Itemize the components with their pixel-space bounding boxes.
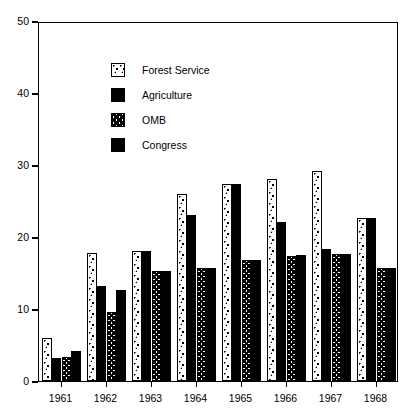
bar — [71, 351, 81, 381]
bar — [296, 255, 306, 381]
x-tick-mark — [286, 382, 288, 387]
y-tick-label: 30 — [0, 159, 29, 171]
x-tick-mark — [241, 382, 243, 387]
bar — [116, 290, 126, 381]
y-tick-label: 50 — [0, 15, 29, 27]
bar — [267, 179, 277, 381]
bar — [232, 184, 242, 381]
chart-legend: Forest Service Agriculture OMB Congress — [111, 57, 281, 157]
legend-swatch-forest-service-icon — [111, 63, 125, 77]
bar — [357, 218, 367, 381]
bar-chart: Millions of Dollars 01020304050 19611962… — [0, 0, 411, 419]
plot-area: Forest Service Agriculture OMB Congress — [38, 22, 398, 382]
bar — [52, 358, 62, 381]
legend-item-agriculture: Agriculture — [111, 82, 281, 107]
x-tick-mark — [61, 382, 63, 387]
legend-label-congress: Congress — [142, 139, 187, 151]
bar — [62, 357, 72, 381]
x-tick-label: 1964 — [173, 392, 219, 404]
bar — [197, 268, 207, 381]
bar — [42, 338, 52, 381]
x-tick-label: 1963 — [128, 392, 174, 404]
bar — [386, 268, 396, 381]
legend-label-forest-service: Forest Service — [142, 64, 210, 76]
y-tick-label: 0 — [0, 375, 29, 387]
bar — [97, 286, 107, 381]
bar — [377, 268, 387, 381]
x-tick-label: 1967 — [308, 392, 354, 404]
x-tick-label: 1965 — [218, 392, 264, 404]
legend-swatch-congress-icon — [111, 138, 125, 152]
bar — [277, 222, 287, 381]
x-tick-label: 1961 — [38, 392, 84, 404]
legend-item-congress: Congress — [111, 132, 281, 157]
bar — [152, 271, 162, 381]
legend-item-forest-service: Forest Service — [111, 57, 281, 82]
bar — [206, 268, 216, 381]
bar — [87, 253, 97, 381]
bar — [142, 251, 152, 381]
bar — [161, 271, 171, 381]
bar — [132, 251, 142, 381]
legend-label-agriculture: Agriculture — [142, 89, 192, 101]
y-tick-label: 20 — [0, 231, 29, 243]
x-tick-mark — [196, 382, 198, 387]
legend-item-omb: OMB — [111, 107, 281, 132]
bar — [222, 184, 232, 381]
x-tick-mark — [106, 382, 108, 387]
bar — [287, 256, 297, 381]
bar — [312, 171, 322, 381]
bar — [332, 254, 342, 381]
y-tick-label: 10 — [0, 303, 29, 315]
legend-label-omb: OMB — [142, 114, 166, 126]
legend-swatch-agriculture-icon — [111, 88, 125, 102]
bar — [251, 260, 261, 381]
x-tick-mark — [376, 382, 378, 387]
bar — [322, 249, 332, 381]
x-tick-label: 1962 — [83, 392, 129, 404]
x-tick-label: 1968 — [353, 392, 399, 404]
y-tick-label: 40 — [0, 87, 29, 99]
bar — [242, 260, 252, 381]
bar — [341, 254, 351, 381]
x-tick-mark — [331, 382, 333, 387]
bar — [187, 215, 197, 381]
bar — [367, 218, 377, 381]
bar — [107, 312, 117, 381]
x-tick-label: 1966 — [263, 392, 309, 404]
legend-swatch-omb-icon — [111, 113, 125, 127]
bar — [177, 194, 187, 381]
x-tick-mark — [151, 382, 153, 387]
